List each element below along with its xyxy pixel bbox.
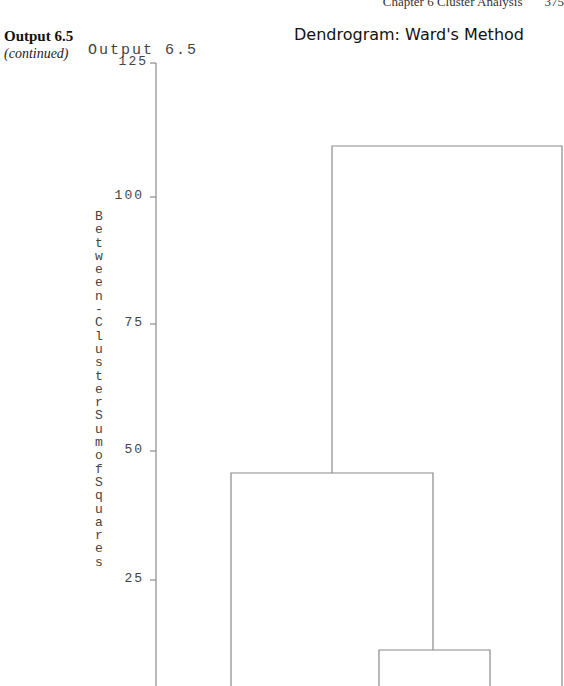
- dendrogram-branches: [231, 146, 562, 686]
- merge-m3: [332, 146, 562, 686]
- merge-m2: [231, 473, 433, 686]
- dendrogram-plot: [0, 0, 564, 686]
- y-axis: [150, 63, 156, 686]
- merge-m1: [379, 650, 490, 686]
